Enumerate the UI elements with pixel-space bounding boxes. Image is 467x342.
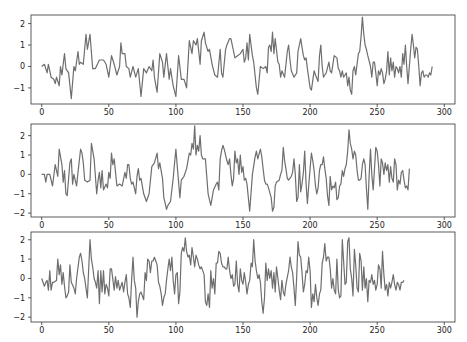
x-tick-label: 300 <box>437 108 452 117</box>
y-tick-label: 2 <box>20 20 25 29</box>
series-line <box>42 238 404 317</box>
series-line <box>42 126 410 211</box>
axes-frame <box>31 232 455 322</box>
subplot-middle: 050100150200250300−2−1012 <box>13 124 455 230</box>
y-tick-label: 1 <box>20 255 25 264</box>
series-line <box>42 17 433 99</box>
x-tick-label: 50 <box>104 108 114 117</box>
y-tick-label: 0 <box>20 62 25 71</box>
x-tick-label: 300 <box>437 221 452 230</box>
x-tick-label: 200 <box>302 221 317 230</box>
y-tick-label: −2 <box>13 209 25 218</box>
x-tick-label: 0 <box>39 221 44 230</box>
y-tick-label: −2 <box>13 313 25 322</box>
x-tick-label: 100 <box>168 326 183 335</box>
y-tick-label: 0 <box>20 274 25 283</box>
x-tick-label: 250 <box>370 221 385 230</box>
x-tick-label: 200 <box>302 108 317 117</box>
x-tick-label: 0 <box>39 108 44 117</box>
x-tick-label: 150 <box>235 108 250 117</box>
y-tick-label: 2 <box>20 132 25 141</box>
axes-frame <box>31 15 455 104</box>
x-tick-label: 150 <box>235 221 250 230</box>
y-tick-label: 2 <box>20 236 25 245</box>
x-tick-label: 300 <box>437 326 452 335</box>
y-tick-label: 1 <box>20 41 25 50</box>
x-tick-label: 50 <box>104 221 114 230</box>
x-tick-label: 150 <box>235 326 250 335</box>
y-tick-label: −1 <box>13 190 25 199</box>
x-tick-label: 50 <box>104 326 114 335</box>
x-tick-label: 250 <box>370 326 385 335</box>
y-tick-label: −1 <box>13 294 25 303</box>
y-tick-label: 0 <box>20 170 25 179</box>
x-tick-label: 100 <box>168 221 183 230</box>
x-tick-label: 100 <box>168 108 183 117</box>
x-tick-label: 200 <box>302 326 317 335</box>
x-tick-label: 250 <box>370 108 385 117</box>
x-tick-label: 0 <box>39 326 44 335</box>
subplot-top: 050100150200250300−1012 <box>13 15 455 117</box>
y-tick-label: −1 <box>13 84 25 93</box>
figure: 050100150200250300−1012 0501001502002503… <box>0 0 467 342</box>
y-tick-label: 1 <box>20 151 25 160</box>
subplot-bottom: 050100150200250300−2−1012 <box>13 232 455 335</box>
